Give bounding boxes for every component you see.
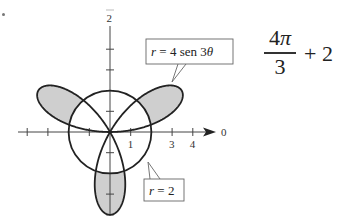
callout-circle: r = 2 (144, 162, 184, 201)
x-tick-labels: 134 (128, 138, 196, 150)
callout-circle-tail (148, 162, 160, 179)
fraction-numerator: 4π (262, 26, 298, 50)
x-tick-label: 3 (169, 138, 175, 150)
vertical-axis-label: 2 (107, 12, 113, 24)
x-tick-label: 1 (128, 138, 134, 150)
expression-rest: + 2 (304, 41, 333, 67)
callout-circle-label: r = 2 (149, 183, 174, 198)
polar-axis-label: 0 (221, 126, 227, 138)
x-tick-label: 4 (190, 138, 196, 150)
callout-rose: r = 4 sen 3θ (146, 39, 233, 82)
shaded-petal (137, 85, 183, 124)
fraction-denominator: 3 (262, 55, 298, 79)
shaded-petal (37, 85, 83, 124)
callout-rose-label: r = 4 sen 3θ (151, 44, 214, 59)
callout-rose-tail (172, 64, 186, 82)
fraction: 4π 3 (262, 26, 298, 79)
